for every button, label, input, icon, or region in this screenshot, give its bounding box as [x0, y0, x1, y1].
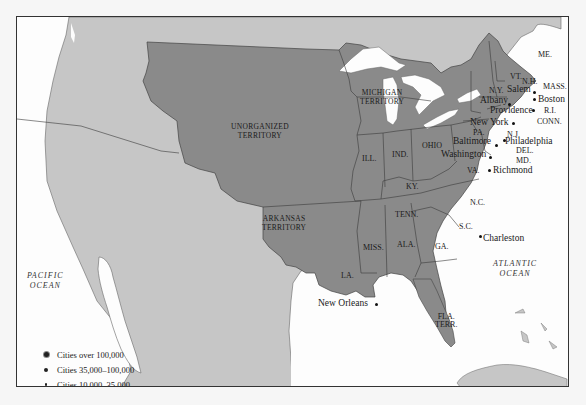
small-city-dot-icon — [35, 383, 57, 386]
legend-row-small: Cities 10,000–35,000 — [35, 377, 134, 387]
city-dot-boston — [533, 98, 536, 101]
label-mississippi: MISS. — [363, 244, 384, 252]
legend-label: Cities over 100,000 — [57, 350, 124, 360]
label-indiana: IND. — [392, 151, 408, 159]
city-dot-philadelphia — [503, 139, 506, 142]
label-connecticut: CONN. — [537, 118, 562, 126]
label-kentucky: KY. — [406, 183, 419, 191]
label-alabama: ALA. — [397, 241, 415, 249]
city-boston: Boston — [538, 95, 565, 105]
label-virginia: VA. — [467, 167, 480, 175]
city-dot-washington — [489, 156, 492, 159]
city-dot-new-orleans — [375, 303, 378, 306]
map-frame: UNORGANIZED TERRITORY MICHIGAN TERRITORY… — [16, 16, 569, 387]
cuba — [457, 364, 567, 387]
bahamas — [515, 309, 557, 349]
large-city-dot-icon — [35, 352, 57, 357]
city-new-york: New York — [470, 118, 509, 128]
city-richmond: Richmond — [493, 166, 533, 176]
label-florida-territory: FLA. TERR. — [435, 313, 457, 329]
label-tennessee: TENN. — [395, 211, 418, 219]
legend-row-medium: Cities 35,000–100,000 — [35, 362, 134, 377]
label-louisiana: LA. — [341, 272, 354, 280]
map-legend: Cities over 100,000 Cities 35,000–100,00… — [35, 347, 134, 387]
label-illinois: ILL. — [362, 155, 376, 163]
city-philadelphia: Philadelphia — [505, 137, 553, 147]
city-salem: Salem — [507, 85, 531, 95]
city-dot-baltimore — [495, 144, 498, 147]
city-dot-richmond — [488, 169, 491, 172]
label-maryland: MD. — [516, 157, 531, 165]
label-new-york: N.Y. — [489, 87, 504, 95]
legend-label: Cities 35,000–100,000 — [57, 365, 134, 375]
label-georgia: GA. — [435, 243, 449, 251]
label-massachusetts: MASS. — [543, 83, 567, 91]
label-atlantic-ocean: ATLANTIC OCEAN — [493, 260, 537, 278]
label-north-carolina: N.C. — [470, 199, 485, 207]
city-dot-new-york — [512, 122, 515, 125]
label-arkansas-territory: ARKANSAS TERRITORY — [262, 215, 306, 231]
label-rhode-island: R.I. — [544, 107, 556, 115]
city-dot-salem — [533, 91, 536, 94]
label-delaware: DEL. — [516, 147, 534, 155]
medium-city-dot-icon — [35, 368, 57, 372]
label-pacific-ocean: PACIFIC OCEAN — [27, 272, 64, 290]
city-charleston: Charleston — [483, 234, 524, 244]
city-dot-charleston — [479, 235, 482, 238]
legend-label: Cities 10,000–35,000 — [57, 380, 130, 388]
city-washington: Washington — [441, 150, 486, 160]
map-canvas — [17, 17, 569, 387]
city-dot-providence — [532, 109, 535, 112]
label-south-carolina: S.C. — [459, 223, 473, 231]
legend-row-large: Cities over 100,000 — [35, 347, 134, 362]
label-vermont: VT. — [510, 73, 522, 81]
city-providence: Providence — [490, 106, 533, 116]
city-new-orleans: New Orleans — [318, 299, 368, 309]
label-ohio: OHIO — [422, 142, 442, 150]
label-maine: ME. — [538, 51, 552, 59]
label-michigan-territory: MICHIGAN TERRITORY — [360, 89, 404, 105]
city-baltimore: Baltimore — [453, 137, 491, 147]
label-unorganized-territory: UNORGANIZED TERRITORY — [231, 123, 289, 139]
